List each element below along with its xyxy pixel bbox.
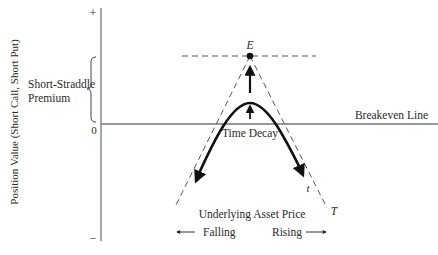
curve-t-label: t	[306, 182, 310, 194]
peak-point-label: E	[245, 39, 253, 51]
y-axis-minus-marker: –	[89, 231, 96, 243]
expiration-T-label: T	[331, 205, 339, 217]
time-decay-label: Time Decay	[222, 127, 278, 140]
peak-point-E	[247, 53, 254, 60]
y-axis-label: Position Value (Short Call, Short Put)	[8, 39, 21, 205]
curve-right-arrowhead	[299, 166, 303, 175]
short-straddle-diagram: + 0 – Position Value (Short Call, Short …	[0, 0, 438, 255]
premium-label-line2: Premium	[28, 92, 70, 104]
rising-label: Rising	[272, 226, 302, 239]
curve-left-arrowhead	[196, 172, 200, 181]
y-axis-zero-marker: 0	[91, 124, 97, 136]
breakeven-label: Breakeven Line	[355, 109, 428, 121]
x-axis-label: Underlying Asset Price	[199, 208, 306, 221]
premium-label-line1: Short-Straddle	[28, 78, 95, 90]
y-axis-plus-marker: +	[90, 6, 97, 20]
falling-label: Falling	[203, 226, 236, 239]
